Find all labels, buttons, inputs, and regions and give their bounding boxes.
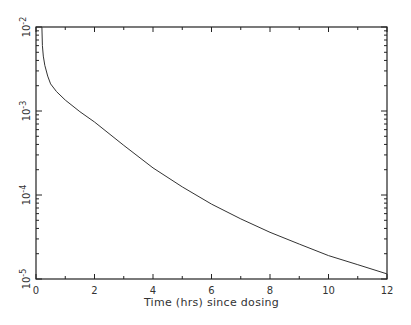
major-ticks <box>36 27 387 279</box>
x-tick-label: 10 <box>322 285 335 296</box>
minor-ticks <box>36 27 387 279</box>
y-tick-labels: 10-210-310-410-5 <box>19 17 32 290</box>
x-tick-label: 12 <box>381 285 394 296</box>
y-tick-label: 10-5 <box>19 269 32 290</box>
chart: 024681012 10-210-310-410-5 Time (hrs) si… <box>0 0 411 325</box>
x-tick-label: 6 <box>208 285 214 296</box>
y-tick-label: 10-4 <box>19 185 32 206</box>
y-tick-label: 10-3 <box>19 101 32 122</box>
plot-frame <box>36 27 387 279</box>
x-tick-label: 4 <box>150 285 156 296</box>
x-tick-label: 0 <box>33 285 39 296</box>
data-line <box>42 27 387 274</box>
x-tick-labels: 024681012 <box>33 285 394 296</box>
x-axis-title: Time (hrs) since dosing <box>143 296 279 309</box>
y-tick-label: 10-2 <box>19 17 32 38</box>
x-tick-label: 8 <box>267 285 273 296</box>
x-tick-label: 2 <box>91 285 97 296</box>
